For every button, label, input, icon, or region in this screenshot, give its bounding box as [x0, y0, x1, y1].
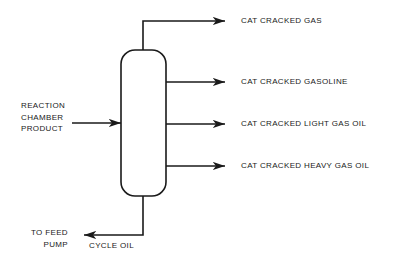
overhead-gas-line: [143, 21, 225, 50]
inlet-label-reaction-chamber-product: REACTION CHAMBER PRODUCT: [21, 100, 65, 135]
fractionator-column: [121, 50, 166, 196]
outlet-label-cat-cracked-gas: CAT CRACKED GAS: [241, 15, 322, 27]
outlet-label-cat-cracked-heavy-gas-oil: CAT CRACKED HEAVY GAS OIL: [241, 160, 369, 172]
process-flow-diagram: CAT CRACKED GAS CAT CRACKED GASOLINE CAT…: [0, 0, 402, 268]
bottoms-stream-label-cycle-oil: CYCLE OIL: [89, 240, 134, 252]
outlet-label-cat-cracked-gasoline: CAT CRACKED GASOLINE: [241, 76, 348, 88]
cycle-oil-bottoms-line: [84, 196, 143, 235]
outlet-label-cat-cracked-light-gas-oil: CAT CRACKED LIGHT GAS OIL: [241, 118, 366, 130]
bottoms-destination-label-to-feed-pump: TO FEED PUMP: [8, 227, 68, 250]
